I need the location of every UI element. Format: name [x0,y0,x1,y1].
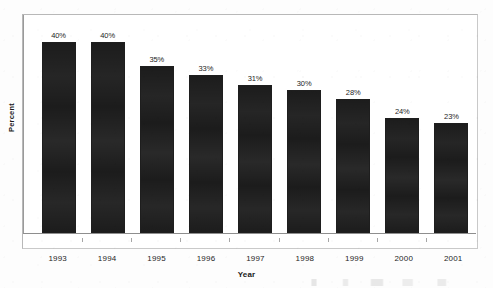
bar-series: 40% 40% 35% 33% 31% [34,16,476,233]
y-axis-line [23,15,24,234]
bar-value-label: 35% [149,56,164,64]
x-axis-line [23,233,476,234]
x-axis-label-1998: 1998 [280,254,329,263]
bar-rect[interactable] [42,42,76,233]
x-axis-title: Year [0,270,493,279]
bar-value-label: 40% [100,32,115,40]
x-axis-label-1996: 1996 [181,254,230,263]
bar-group-1995[interactable]: 35% [132,16,181,233]
bar-rect[interactable] [140,66,174,233]
y-axis-title: Percent [1,0,21,235]
bar-group-1997[interactable]: 31% [230,16,279,233]
x-axis-label-2001: 2001 [429,254,478,263]
x-axis-label-1994: 1994 [82,254,131,263]
x-axis-label-1997: 1997 [231,254,280,263]
bar-group-1996[interactable]: 33% [181,16,230,233]
x-axis-label-1999: 1999 [330,254,379,263]
bar-rect[interactable] [91,42,125,233]
bar-value-label: 31% [248,75,263,83]
bar-rect[interactable] [336,99,370,233]
bar-rect[interactable] [434,123,468,233]
bar-rect[interactable] [238,85,272,233]
bar-group-2001[interactable]: 23% [427,16,476,233]
bar-group-1998[interactable]: 30% [280,16,329,233]
bar-value-label: 24% [395,108,410,116]
bar-rect[interactable] [385,118,419,233]
bar-value-label: 40% [51,32,66,40]
bar-group-1994[interactable]: 40% [83,16,132,233]
plot-area: 40% 40% 35% 33% 31% [34,16,476,234]
x-axis-label-2000: 2000 [379,254,428,263]
bar-rect[interactable] [189,75,223,233]
bar-group-1993[interactable]: 40% [34,16,83,233]
bar-value-label: 28% [346,89,361,97]
bar-value-label: 33% [199,65,214,73]
bar-group-2000[interactable]: 24% [378,16,427,233]
x-axis-label-1995: 1995 [132,254,181,263]
x-axis-category-labels: 1993 1994 1995 1996 1997 1998 1999 2000 … [33,254,478,263]
bar-value-label: 30% [297,80,312,88]
chart-plot-frame: 40% 40% 35% 33% 31% [22,14,478,249]
bar-rect[interactable] [287,90,321,233]
x-axis-label-1993: 1993 [33,254,82,263]
y-axis-title-label: Percent [7,103,16,132]
bar-group-1999[interactable]: 28% [329,16,378,233]
bar-value-label: 23% [444,113,459,121]
